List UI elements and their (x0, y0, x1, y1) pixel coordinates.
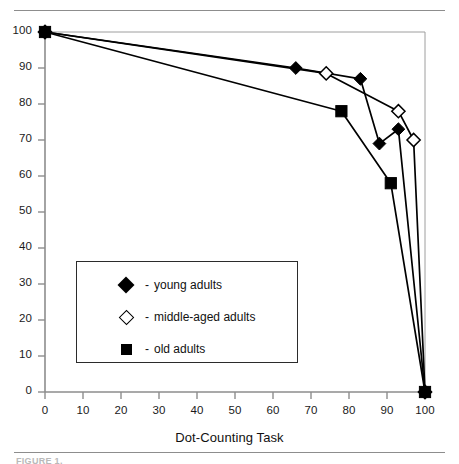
data-point-old-adults-1 (336, 106, 347, 117)
data-point-young-adults-3 (373, 137, 386, 150)
open-diamond-icon (109, 312, 143, 323)
x-tick-label-40: 40 (182, 404, 212, 416)
y-tick-label-100: 100 (4, 24, 32, 36)
legend-entry-young-adults: - young adults (77, 272, 299, 298)
legend-label-old-adults: old adults (154, 342, 205, 356)
data-point-young-adults-4 (392, 123, 405, 136)
plot-canvas (0, 0, 459, 464)
data-point-young-adults-1 (289, 62, 302, 75)
x-tick-label-70: 70 (296, 404, 326, 416)
y-tick-label-90: 90 (4, 60, 32, 72)
legend-entry-old-adults: - old adults (77, 336, 299, 362)
y-tick-label-20: 20 (4, 312, 32, 324)
y-tick-label-80: 80 (4, 96, 32, 108)
legend-dash-0: - (145, 278, 149, 292)
x-tick-label-50: 50 (220, 404, 250, 416)
x-tick-label-0: 0 (30, 404, 60, 416)
data-point-middle-aged-adults-1 (320, 67, 333, 80)
y-tick-label-70: 70 (4, 132, 32, 144)
legend: - young adults - middle-aged adults - ol… (76, 261, 298, 363)
y-tick-label-60: 60 (4, 168, 32, 180)
y-tick-label-10: 10 (4, 348, 32, 360)
legend-entry-middle-aged-adults: - middle-aged adults (77, 304, 299, 330)
data-point-middle-aged-adults-2 (392, 105, 405, 118)
data-point-middle-aged-adults-3 (407, 133, 420, 146)
figure-root: 0102030405060708090100 01020304050607080… (0, 0, 459, 464)
figure-caption-stub: FIGURE 1. (16, 456, 63, 464)
y-tick-label-40: 40 (4, 240, 32, 252)
bottom-divider-rule (14, 452, 445, 453)
data-point-old-adults-2 (385, 178, 396, 189)
legend-label-young-adults: young adults (154, 278, 222, 292)
y-tick-label-50: 50 (4, 204, 32, 216)
x-tick-label-10: 10 (68, 404, 98, 416)
data-point-old-adults-0 (39, 26, 50, 37)
x-tick-label-100: 100 (410, 404, 440, 416)
legend-label-middle-aged-adults: middle-aged adults (154, 310, 255, 324)
x-tick-label-20: 20 (106, 404, 136, 416)
y-tick-label-0: 0 (4, 384, 32, 396)
data-point-old-adults-3 (419, 386, 430, 397)
x-tick-label-90: 90 (372, 404, 402, 416)
filled-square-icon (109, 344, 143, 355)
filled-diamond-icon (109, 279, 143, 291)
legend-dash-2: - (145, 342, 149, 356)
x-tick-label-30: 30 (144, 404, 174, 416)
x-axis-title: Dot-Counting Task (0, 430, 459, 445)
x-tick-label-60: 60 (258, 404, 288, 416)
y-tick-label-30: 30 (4, 276, 32, 288)
data-point-young-adults-2 (354, 72, 367, 85)
x-tick-label-80: 80 (334, 404, 364, 416)
legend-dash-1: - (145, 310, 149, 324)
